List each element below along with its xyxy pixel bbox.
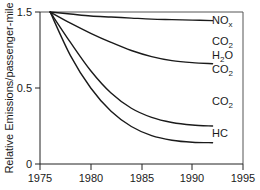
- series-curves: [50, 12, 212, 143]
- series-label-co2-lower: CO2: [212, 95, 234, 110]
- series-curve-co2-lower: [50, 12, 212, 126]
- y-tick-label-0: 0: [26, 158, 32, 170]
- y-tick-label-0_5: 0.5: [17, 82, 32, 94]
- y-tick-label-1_5: 1.5: [17, 6, 32, 18]
- series-label-hc: HC: [212, 127, 228, 139]
- chart-root: 1.5 0.5 0 1975 1980 1985 1990 1995 Relat…: [0, 0, 260, 190]
- x-tick-label-1990: 1990: [180, 172, 204, 184]
- series-label-h2o: H2O: [212, 49, 233, 64]
- x-tick-label-1995: 1995: [231, 172, 255, 184]
- series-curve-nox: [50, 12, 212, 21]
- series-curve-hc: [50, 12, 212, 143]
- emissions-line-chart: 1.5 0.5 0 1975 1980 1985 1990 1995 Relat…: [0, 0, 260, 190]
- y-axis-title: Relative Emissions/passenger-mile: [3, 2, 15, 173]
- x-tick-label-1985: 1985: [130, 172, 154, 184]
- series-label-co2-mid: CO2: [212, 63, 234, 78]
- series-label-co2-upper: CO2: [212, 35, 234, 50]
- series-label-nox: NOx: [212, 14, 233, 29]
- x-tick-label-1980: 1980: [79, 172, 103, 184]
- x-tick-label-1975: 1975: [28, 172, 52, 184]
